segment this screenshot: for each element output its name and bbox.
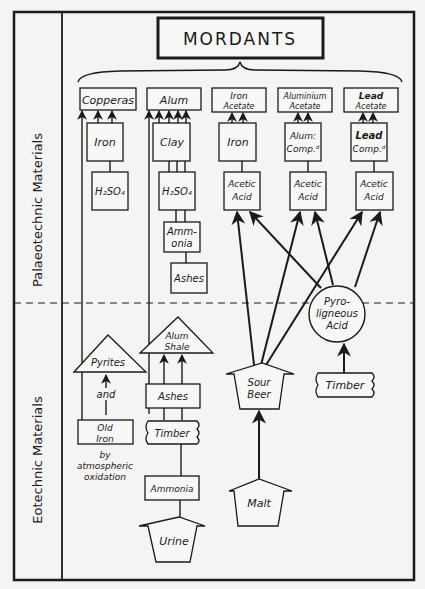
svg-text:Ashes: Ashes [173, 273, 204, 284]
svg-text:Lead: Lead [355, 130, 383, 141]
node-urine: Urine [139, 517, 205, 562]
svg-text:Alum: Alum [159, 94, 188, 107]
svg-text:Shale: Shale [165, 342, 190, 352]
svg-text:Sour: Sour [248, 377, 272, 388]
node-h2so4-2: H₂SO₄ [159, 172, 195, 210]
node-ammonia-1: Amm- onia [164, 222, 200, 252]
svg-text:by: by [99, 450, 111, 460]
svg-text:Beer: Beer [247, 389, 271, 400]
svg-text:Iron: Iron [230, 91, 248, 101]
svg-text:oxidation: oxidation [84, 472, 126, 482]
node-clay: Clay [153, 123, 190, 161]
svg-text:Acetate: Acetate [289, 102, 321, 111]
svg-text:Alum:: Alum: [289, 131, 316, 141]
node-iron-2: Iron [219, 123, 256, 161]
svg-text:Old: Old [97, 423, 113, 433]
svg-text:Acetate: Acetate [223, 102, 255, 111]
svg-text:Timber: Timber [154, 428, 190, 439]
mordant-aluminium-acetate: Aluminium Acetate [278, 88, 332, 112]
and-label: and [97, 389, 116, 400]
svg-text:Acetic: Acetic [293, 179, 322, 189]
svg-text:Urine: Urine [159, 535, 189, 548]
svg-text:Pyro-: Pyro- [324, 296, 350, 307]
svg-text:Malt: Malt [247, 497, 271, 510]
node-acetic-acid-2: Acetic Acid [290, 172, 326, 210]
mordant-iron-acetate: Iron Acetate [212, 88, 266, 112]
mordant-alum: Alum [147, 88, 201, 110]
node-timber-1: Timber [146, 421, 199, 444]
node-alum-comp: Alum: Comp.ᵈ [285, 123, 321, 161]
title: MORDANTS [183, 29, 297, 49]
svg-text:Iron: Iron [96, 434, 114, 444]
brace [78, 62, 402, 82]
node-pyroligneous-acid: Pyro- ligneous Acid [309, 286, 365, 342]
svg-text:Amm-: Amm- [166, 226, 197, 237]
svg-text:Iron: Iron [227, 136, 248, 149]
svg-text:Acetate: Acetate [355, 102, 387, 111]
svg-text:Acid: Acid [297, 192, 318, 202]
svg-text:Acid: Acid [231, 192, 252, 202]
svg-text:Acid: Acid [363, 192, 384, 202]
svg-text:Comp.ᵈ: Comp.ᵈ [287, 144, 320, 154]
svg-text:Alum: Alum [164, 331, 188, 341]
svg-text:Copperas: Copperas [82, 94, 134, 107]
node-pyrites: Pyrites [74, 335, 146, 372]
node-old-iron: Old Iron [78, 420, 133, 444]
node-lead-comp: Lead Comp.ᵈ [351, 123, 387, 161]
svg-text:onia: onia [171, 238, 192, 249]
svg-text:Clay: Clay [160, 136, 184, 149]
mordants-diagram: Palaeotechnic Materials Eotechnic Materi… [0, 0, 425, 589]
node-ashes-1: Ashes [171, 263, 207, 293]
mordant-copperas: Copperas [80, 88, 136, 110]
node-acetic-acid-1: Acetic Acid [224, 172, 260, 210]
svg-text:H₂SO₄: H₂SO₄ [95, 186, 125, 197]
svg-text:Acetic: Acetic [359, 179, 388, 189]
eotechnic-label: Eotechnic Materials [30, 396, 45, 524]
palaeotechnic-label: Palaeotechnic Materials [30, 133, 45, 287]
node-alum-shale: Alum Shale [140, 317, 213, 353]
svg-text:Comp.ᵈ: Comp.ᵈ [353, 144, 386, 154]
svg-text:Ammonia: Ammonia [150, 484, 194, 494]
svg-text:Lead: Lead [359, 91, 384, 101]
svg-text:Ashes: Ashes [157, 391, 188, 402]
svg-text:Acid: Acid [325, 320, 348, 331]
node-ammonia-2: Ammonia [145, 476, 199, 500]
mordant-lead-acetate: Lead Acetate [344, 88, 398, 112]
node-ashes-2: Ashes [146, 384, 200, 408]
svg-text:Timber: Timber [326, 379, 366, 392]
svg-text:atmospheric: atmospheric [77, 461, 133, 471]
node-h2so4-1: H₂SO₄ [92, 172, 128, 210]
svg-text:Pyrites: Pyrites [91, 357, 125, 368]
svg-text:ligneous: ligneous [316, 308, 358, 319]
svg-text:Acetic: Acetic [227, 179, 256, 189]
node-iron-1: Iron [87, 123, 123, 161]
svg-text:Iron: Iron [94, 136, 115, 149]
node-acetic-acid-3: Acetic Acid [356, 172, 393, 210]
svg-text:Aluminium: Aluminium [283, 92, 327, 101]
node-sour-beer: Sour Beer [226, 363, 294, 409]
node-malt: Malt [229, 479, 292, 526]
oxidation-note: by atmospheric oxidation [77, 450, 133, 482]
node-timber-2: Timber [316, 373, 374, 397]
svg-text:H₂SO₄: H₂SO₄ [162, 186, 192, 197]
